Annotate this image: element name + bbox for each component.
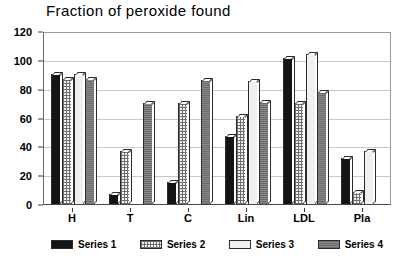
x-axis-tick-label: C <box>184 212 192 224</box>
chart-legend: Series 1Series 2Series 3Series 4 <box>43 236 391 252</box>
y-axis-tick-label: 80 <box>20 84 32 96</box>
x-axis-tick-label: T <box>127 212 134 224</box>
legend-swatch-icon <box>140 240 162 249</box>
bar-rect <box>143 103 153 204</box>
legend-item-series-3[interactable]: Series 3 <box>229 239 294 250</box>
legend-label: Series 3 <box>256 239 294 250</box>
bar-rect <box>62 79 72 204</box>
legend-swatch-icon <box>318 240 340 249</box>
bar-group-pla <box>334 33 392 204</box>
bar-rect <box>352 192 362 204</box>
y-axis-tick-label: 100 <box>14 55 32 67</box>
bar-rect <box>51 74 61 204</box>
y-axis-tick-label: 0 <box>26 199 32 211</box>
bar-rect <box>259 102 269 204</box>
x-axis-tick-label: H <box>68 212 76 224</box>
bar-rect <box>201 80 211 204</box>
bar-group-ldl <box>276 33 334 204</box>
bar-chart-figure: Fraction of peroxide found 0204060801001… <box>0 0 408 267</box>
bar-rect <box>178 103 188 204</box>
legend-label: Series 4 <box>345 239 383 250</box>
plot-area <box>43 32 391 205</box>
y-axis-tick-label: 120 <box>14 26 32 38</box>
bar-rect <box>317 92 327 204</box>
bar-rect <box>248 81 258 204</box>
legend-item-series-2[interactable]: Series 2 <box>140 239 205 250</box>
x-axis-tick-label: LDL <box>293 212 314 224</box>
y-axis: 020406080100120 <box>0 32 38 205</box>
y-axis-tick-label: 60 <box>20 113 32 125</box>
legend-label: Series 2 <box>167 239 205 250</box>
bar-rect <box>109 194 119 204</box>
bars-layer <box>44 33 390 204</box>
bar-rect <box>74 74 84 204</box>
y-axis-tick-label: 40 <box>20 141 32 153</box>
legend-item-series-1[interactable]: Series 1 <box>51 239 116 250</box>
x-axis-tick-label: Pla <box>354 212 371 224</box>
legend-swatch-icon <box>51 240 73 249</box>
x-axis: HTCLinLDLPla <box>43 208 391 226</box>
legend-swatch-icon <box>229 240 251 249</box>
bar-rect <box>85 79 95 204</box>
legend-label: Series 1 <box>78 239 116 250</box>
bar-group-h <box>44 33 102 204</box>
y-axis-tick-label: 20 <box>20 170 32 182</box>
chart-title: Fraction of peroxide found <box>46 2 231 19</box>
bar-rect <box>294 103 304 204</box>
bar-rect <box>236 116 246 204</box>
legend-item-series-4[interactable]: Series 4 <box>318 239 383 250</box>
bar-group-c <box>160 33 218 204</box>
bar-rect <box>120 151 130 204</box>
x-axis-tick-label: Lin <box>238 212 255 224</box>
bar-rect <box>341 158 351 204</box>
bar-group-t <box>102 33 160 204</box>
bar-rect <box>167 182 177 204</box>
bar-rect <box>225 136 235 204</box>
bar-rect <box>306 54 316 204</box>
bar-rect <box>283 58 293 204</box>
bar-group-lin <box>218 33 276 204</box>
bar-rect <box>364 151 374 204</box>
